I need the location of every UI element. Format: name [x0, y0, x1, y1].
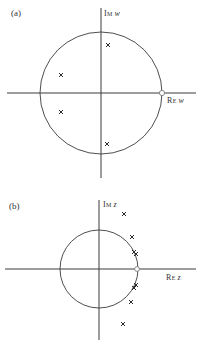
real-axis-label-b: RE z: [166, 274, 181, 282]
panel-label-b: (b): [9, 202, 20, 211]
pole-zero-plot-a: [0, 0, 204, 350]
axis-label-smallcaps: E: [173, 98, 177, 104]
axis-label-variable: w: [115, 9, 121, 18]
real-axis-label-a: RE w: [167, 97, 184, 105]
unit-point-marker-a: [159, 90, 164, 95]
pole-cross-icon: [122, 212, 126, 216]
panel-label-a: (a): [11, 9, 21, 18]
imag-axis-label-b: IM z: [103, 201, 117, 209]
pole-cross-icon: [129, 300, 133, 304]
panel-a: (a) IM w RE w (b) IM z RE z: [0, 0, 204, 350]
axis-label-smallcaps: E: [172, 275, 176, 281]
axis-label-variable: z: [114, 200, 117, 209]
axis-label-variable: z: [178, 273, 181, 282]
pole-cross-icon: [121, 322, 125, 326]
pole-cross-icon: [106, 43, 110, 47]
axis-label-smallcaps: M: [106, 202, 112, 208]
poles-a: [59, 43, 110, 146]
imag-axis-label-a: IM w: [104, 10, 120, 18]
pole-cross-icon: [105, 142, 109, 146]
pole-cross-icon: [59, 73, 63, 77]
axis-label-variable: w: [179, 96, 185, 105]
unit-point-marker-b: [135, 267, 140, 272]
pole-cross-icon: [59, 110, 63, 114]
axis-label-smallcaps: M: [107, 11, 113, 17]
pole-cross-icon: [130, 235, 134, 239]
